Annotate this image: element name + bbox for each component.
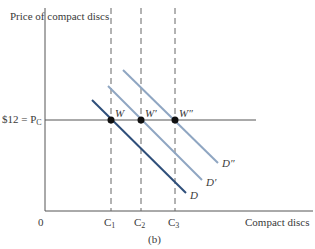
point-w bbox=[108, 117, 115, 124]
x-axis-label: Compact discs bbox=[245, 216, 309, 228]
tick-c1: C1 bbox=[104, 216, 115, 232]
curve-d-label: D bbox=[190, 189, 198, 201]
tick-c2: C2 bbox=[134, 216, 145, 232]
point-w-prime-label: W′ bbox=[145, 107, 157, 119]
tick-c3: C3 bbox=[168, 216, 179, 232]
demand-shift-diagram bbox=[0, 0, 315, 249]
panel-label: (b) bbox=[148, 233, 161, 245]
demand-curve-d bbox=[92, 100, 186, 193]
y-axis-label: Price of compact discs bbox=[10, 10, 80, 23]
origin-label: 0 bbox=[38, 216, 44, 228]
curve-d-double-prime-label: D″ bbox=[222, 157, 235, 169]
point-w-label: W bbox=[115, 107, 124, 119]
point-w-double-prime-label: W″ bbox=[179, 107, 193, 119]
price-label: $12 = PC bbox=[2, 113, 42, 129]
point-w-double-prime bbox=[172, 117, 179, 124]
point-w-prime bbox=[138, 117, 145, 124]
curve-d-prime-label: D′ bbox=[206, 176, 216, 188]
